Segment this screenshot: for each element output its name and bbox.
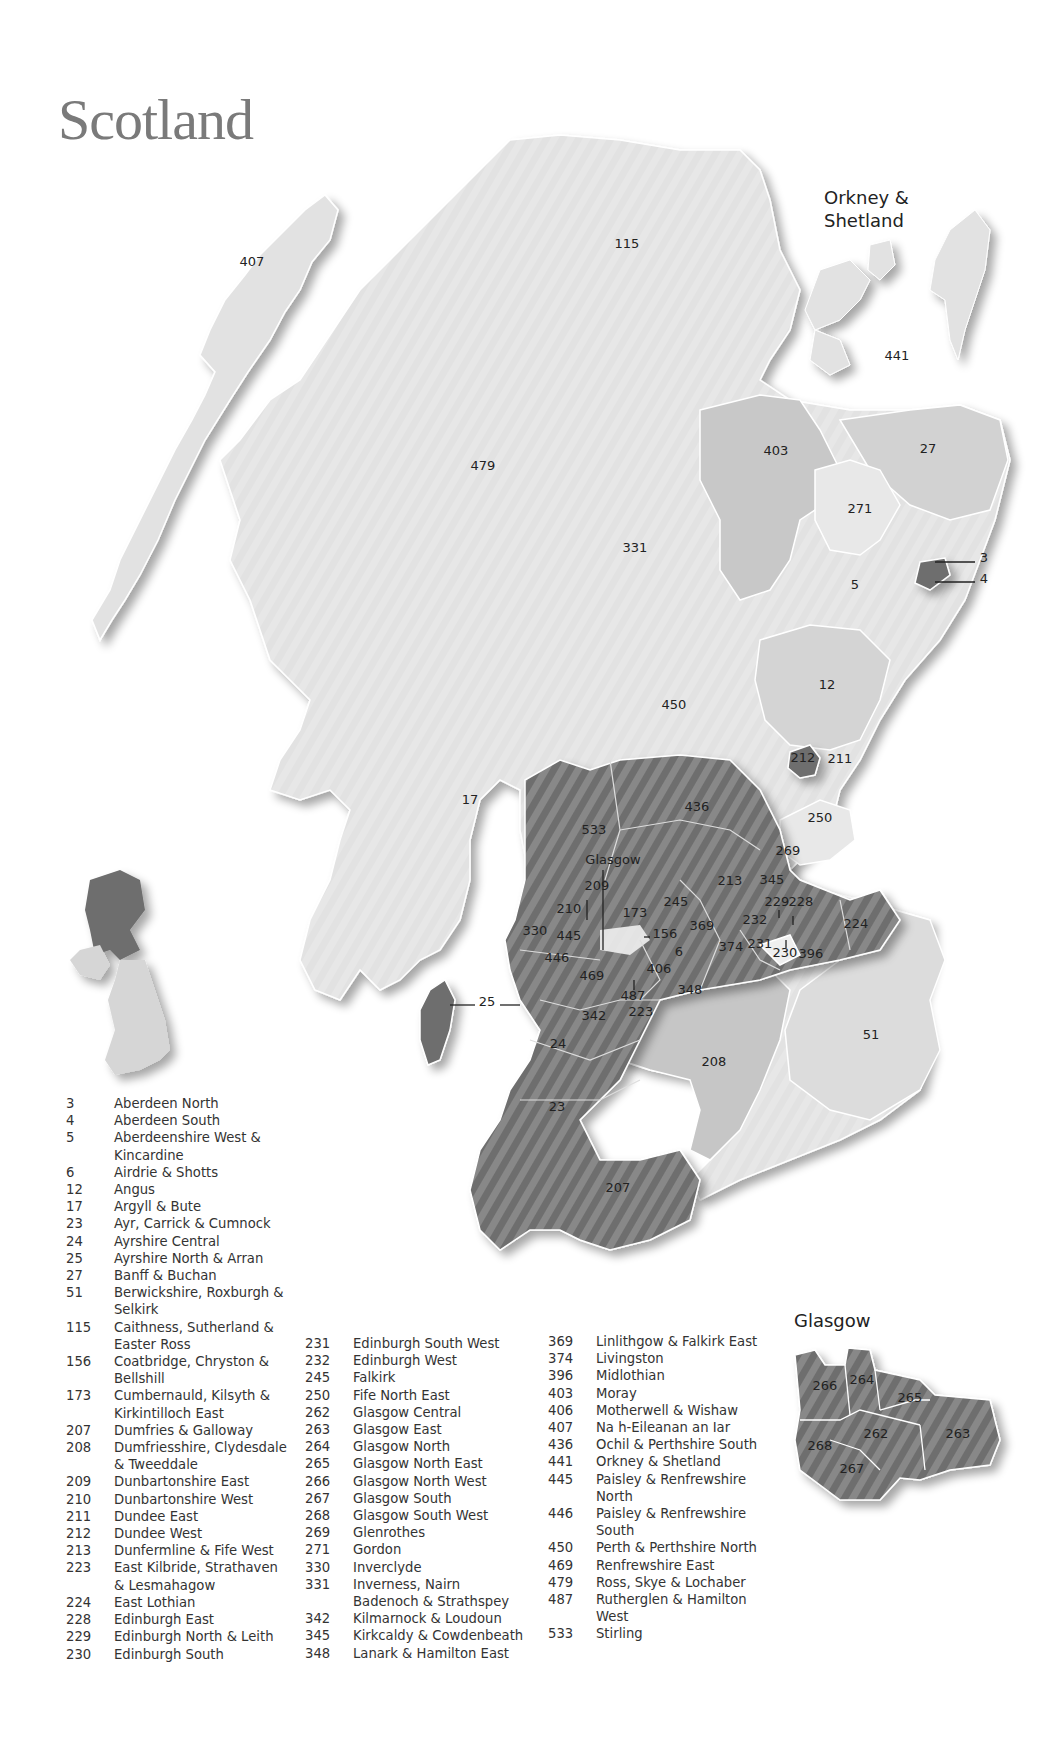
- legend-row: North: [548, 1488, 778, 1505]
- legend-row: 263Glasgow East: [305, 1421, 535, 1438]
- constituency-number-label: 208: [702, 1054, 727, 1069]
- legend-row: 210Dunbartonshire West: [66, 1491, 296, 1508]
- legend-row: 267Glasgow South: [305, 1490, 535, 1507]
- legend-number: 156: [66, 1353, 114, 1370]
- constituency-number-label: 445: [557, 928, 582, 943]
- legend-number: 51: [66, 1284, 114, 1301]
- legend-number: 406: [548, 1402, 596, 1419]
- legend-number: 479: [548, 1574, 596, 1591]
- legend-row: & Lesmahagow: [66, 1577, 296, 1594]
- legend-name: Perth & Perthshire North: [596, 1539, 778, 1556]
- legend-column-1: 3Aberdeen North4Aberdeen South5Aberdeens…: [66, 1095, 296, 1663]
- legend-row: 208Dumfriesshire, Clydesdale: [66, 1439, 296, 1456]
- legend-number: 450: [548, 1539, 596, 1556]
- constituency-number-label: 369: [690, 918, 715, 933]
- legend-row: 436Ochil & Perthshire South: [548, 1436, 778, 1453]
- constituency-number-label: 156: [653, 926, 678, 941]
- legend-row: 209Dunbartonshire East: [66, 1473, 296, 1490]
- legend-row: 374Livingston: [548, 1350, 778, 1367]
- legend-row: 4Aberdeen South: [66, 1112, 296, 1129]
- legend-name: Bellshill: [114, 1370, 296, 1387]
- legend-number: 245: [305, 1369, 353, 1386]
- constituency-number-label: 250: [808, 810, 833, 825]
- legend-name: Inverclyde: [353, 1559, 535, 1576]
- legend-row: Easter Ross: [66, 1336, 296, 1353]
- legend-number: 212: [66, 1525, 114, 1542]
- constituency-number-label: 446: [545, 950, 570, 965]
- legend-name: Aberdeen South: [114, 1112, 296, 1129]
- legend-name: Edinburgh East: [114, 1611, 296, 1628]
- legend-name: Berwickshire, Roxburgh &: [114, 1284, 296, 1301]
- legend-row: Kincardine: [66, 1147, 296, 1164]
- constituency-number-label: 51: [863, 1027, 880, 1042]
- legend-number: 374: [548, 1350, 596, 1367]
- constituency-number-label: 230: [773, 945, 798, 960]
- legend-row: Bellshill: [66, 1370, 296, 1387]
- legend-number: 25: [66, 1250, 114, 1267]
- constituency-number-label: 3: [980, 550, 988, 565]
- legend-number: 23: [66, 1215, 114, 1232]
- legend-row: 469Renfrewshire East: [548, 1557, 778, 1574]
- legend-number: 231: [305, 1335, 353, 1352]
- legend-number: 230: [66, 1646, 114, 1663]
- constituency-number-label: 231: [748, 936, 773, 951]
- legend-name: Kincardine: [114, 1147, 296, 1164]
- constituency-number-label: 207: [606, 1180, 631, 1195]
- legend-name: Caithness, Sutherland &: [114, 1319, 296, 1336]
- legend-name: Midlothian: [596, 1367, 778, 1384]
- legend-row: 479Ross, Skye & Lochaber: [548, 1574, 778, 1591]
- legend-name: Glasgow Central: [353, 1404, 535, 1421]
- legend-row: 348Lanark & Hamilton East: [305, 1645, 535, 1662]
- legend-number: [305, 1593, 353, 1610]
- legend-row: 25Ayrshire North & Arran: [66, 1250, 296, 1267]
- legend-name: Angus: [114, 1181, 296, 1198]
- legend-name: Dumfriesshire, Clydesdale: [114, 1439, 296, 1456]
- legend-row: 228Edinburgh East: [66, 1611, 296, 1628]
- legend-row: 17Argyll & Bute: [66, 1198, 296, 1215]
- constituency-number-label: 12: [819, 677, 836, 692]
- legend-name: Stirling: [596, 1625, 778, 1642]
- legend-name: Cumbernauld, Kilsyth &: [114, 1387, 296, 1404]
- constituency-number-label: 263: [946, 1426, 971, 1441]
- legend-number: 173: [66, 1387, 114, 1404]
- legend-name: Renfrewshire East: [596, 1557, 778, 1574]
- constituency-number-label: 345: [760, 872, 785, 887]
- legend-row: 331Inverness, Nairn: [305, 1576, 535, 1593]
- constituency-number-label: 210: [557, 901, 582, 916]
- legend-number: [66, 1370, 114, 1387]
- legend-name: Dundee East: [114, 1508, 296, 1525]
- legend-name: Aberdeenshire West &: [114, 1129, 296, 1146]
- legend-name: Orkney & Shetland: [596, 1453, 778, 1470]
- constituency-number-label: 396: [799, 946, 824, 961]
- legend-row: 23Ayr, Carrick & Cumnock: [66, 1215, 296, 1232]
- legend-name: Edinburgh South West: [353, 1335, 535, 1352]
- legend-row: 407Na h-Eileanan an Iar: [548, 1419, 778, 1436]
- constituency-number-label: 115: [615, 236, 640, 251]
- legend-row: 6Airdrie & Shotts: [66, 1164, 296, 1181]
- legend-name: Dumfries & Galloway: [114, 1422, 296, 1439]
- legend-row: 369Linlithgow & Falkirk East: [548, 1333, 778, 1350]
- legend-number: 24: [66, 1233, 114, 1250]
- constituency-number-label: 407: [240, 254, 265, 269]
- legend-number: 232: [305, 1352, 353, 1369]
- legend-row: 265Glasgow North East: [305, 1455, 535, 1472]
- legend-row: 445Paisley & Renfrewshire: [548, 1471, 778, 1488]
- legend-number: 264: [305, 1438, 353, 1455]
- legend-name: Glasgow North West: [353, 1473, 535, 1490]
- legend-number: 331: [305, 1576, 353, 1593]
- legend-row: 342Kilmarnock & Loudoun: [305, 1610, 535, 1627]
- legend-row: Kirkintilloch East: [66, 1405, 296, 1422]
- legend-column-2: 231Edinburgh South West232Edinburgh West…: [305, 1335, 535, 1662]
- constituency-number-label: 6: [675, 944, 683, 959]
- legend-name: Livingston: [596, 1350, 778, 1367]
- legend-name: Glasgow South West: [353, 1507, 535, 1524]
- legend-row: 266Glasgow North West: [305, 1473, 535, 1490]
- legend-number: 369: [548, 1333, 596, 1350]
- legend-row: 330Inverclyde: [305, 1559, 535, 1576]
- legend-number: 269: [305, 1524, 353, 1541]
- legend-name: South: [596, 1522, 778, 1539]
- legend-number: 271: [305, 1541, 353, 1558]
- constituency-number-label: 23: [549, 1099, 566, 1114]
- legend-name: Aberdeen North: [114, 1095, 296, 1112]
- constituency-number-label: 262: [864, 1426, 889, 1441]
